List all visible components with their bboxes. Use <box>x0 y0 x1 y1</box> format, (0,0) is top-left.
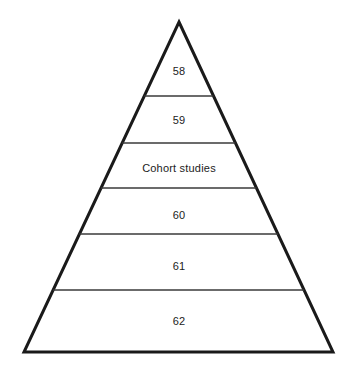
pyramid-tier-label-2: 59 <box>0 114 358 126</box>
pyramid-tier-label-4: 60 <box>0 209 358 221</box>
pyramid-tier-label-3: Cohort studies <box>0 162 358 174</box>
evidence-pyramid-figure: 58 59 Cohort studies 60 61 62 <box>0 0 358 372</box>
pyramid-tier-label-6: 62 <box>0 315 358 327</box>
pyramid-tier-label-5: 61 <box>0 260 358 272</box>
pyramid-tier-label-1: 58 <box>0 65 358 77</box>
